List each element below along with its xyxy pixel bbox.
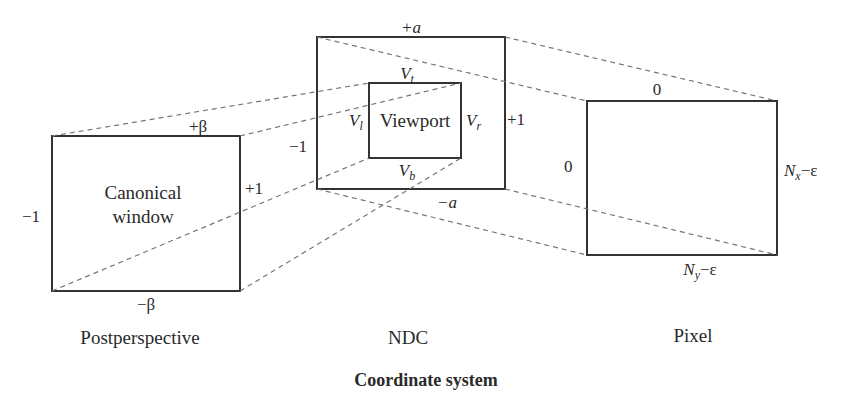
ndc-caption: NDC (388, 328, 428, 347)
viewport-left-label: Vl (349, 112, 363, 129)
ndc-right-label: +1 (507, 111, 525, 128)
figure-title: Coordinate system (354, 371, 497, 389)
canonical-right-label: +1 (245, 180, 263, 197)
viewport-label: Viewport (380, 111, 451, 130)
postperspective-caption: Postperspective (80, 328, 199, 347)
canonical-top-label: +β (189, 118, 207, 135)
ndc-top-label: +a (401, 19, 421, 36)
canonical-bottom-label: −β (137, 296, 155, 313)
ndc-bottom-label: −a (437, 194, 457, 211)
pixel-top-label: 0 (653, 81, 662, 98)
projection-lines-ndc-to-pixel (317, 37, 777, 255)
pixel-caption: Pixel (673, 326, 712, 345)
canonical-left-label: −1 (22, 208, 40, 225)
canonical-window-label-line1: Canonical (104, 183, 181, 202)
pixel-right-label: Nx−ε (784, 162, 817, 179)
viewport-right-label: Vr (466, 112, 481, 129)
pixel-left-label: 0 (564, 158, 573, 175)
pixel-bottom-label: Ny−ε (683, 261, 716, 278)
viewport-top-label: Vt (400, 65, 414, 82)
viewport-bottom-label: Vb (399, 162, 415, 179)
ndc-left-label: −1 (289, 138, 307, 155)
canonical-window-label-line2: window (112, 207, 173, 226)
